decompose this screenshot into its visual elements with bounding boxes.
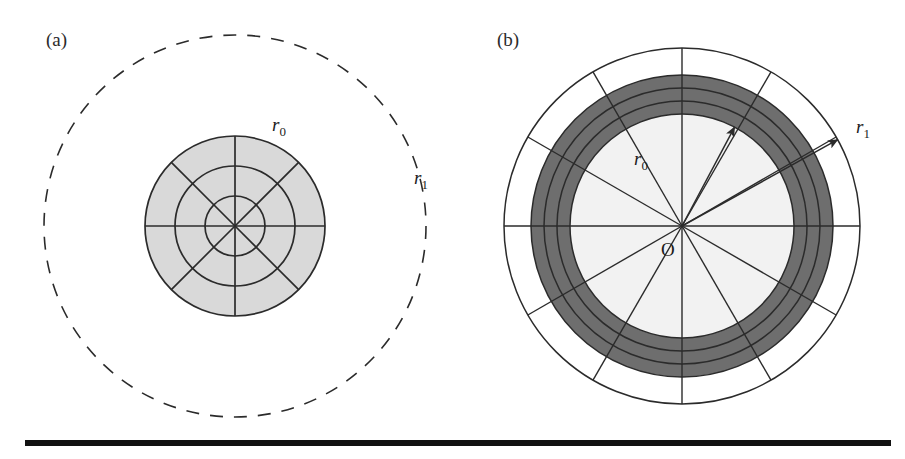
panel-b-shapes (504, 48, 860, 404)
panel-b-origin-label: O (661, 239, 675, 260)
panel-b-tag: (b) (497, 29, 519, 51)
bottom-rule-bar (25, 440, 891, 446)
panel-a-tag: (a) (46, 29, 67, 51)
figure-root: (a) r0 r1 (b) r0 r1 O (0, 0, 905, 459)
figure-canvas: (a) r0 r1 (b) r0 r1 O (0, 0, 905, 459)
